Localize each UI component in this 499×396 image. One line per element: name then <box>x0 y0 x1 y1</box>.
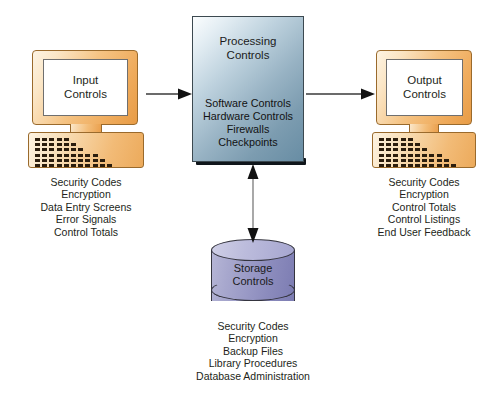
keyboard-key <box>49 143 54 146</box>
keyboard-key <box>422 154 427 157</box>
keyboard-key <box>379 148 384 151</box>
input-caption-item-2: Data Entry Screens <box>0 201 172 213</box>
output-caption-item-3: Control Listings <box>336 213 499 225</box>
keyboard-key <box>386 164 391 167</box>
keyboard-key <box>57 148 62 151</box>
output-screen-title-line2: Controls <box>403 88 446 100</box>
keyboard-key <box>57 159 62 162</box>
output-caption: Security Codes Encryption Control Totals… <box>336 176 499 238</box>
keyboard-key <box>35 143 40 146</box>
processing-item-2: Firewalls <box>193 123 303 136</box>
keyboard-key <box>379 164 384 167</box>
keyboard-key <box>78 148 83 151</box>
keyboard-key <box>393 154 398 157</box>
storage-caption-item-2: Backup Files <box>170 345 336 357</box>
keyboard-key <box>100 159 105 162</box>
storage-caption-item-3: Library Procedures <box>170 357 336 369</box>
keyboard-key <box>42 164 47 167</box>
processing-box: Processing Controls Software Controls Ha… <box>192 16 304 162</box>
keyboard-key <box>57 143 62 146</box>
input-caption: Security Codes Encryption Data Entry Scr… <box>0 176 172 238</box>
keyboard-key <box>64 138 69 141</box>
storage-caption-item-4: Database Administration <box>170 370 336 382</box>
input-caption-item-0: Security Codes <box>0 176 172 188</box>
keyboard-key <box>401 148 406 151</box>
keyboard-key <box>437 154 442 157</box>
keyboard-key <box>415 148 420 151</box>
keyboard-key <box>35 138 40 141</box>
keyboard-key <box>444 164 449 167</box>
keyboard-key <box>71 143 76 146</box>
output-caption-item-1: Encryption <box>336 188 499 200</box>
keyboard-key <box>100 164 105 167</box>
keyboard-key <box>379 143 384 146</box>
keyboard-key <box>437 164 442 167</box>
input-keyboard <box>28 132 144 168</box>
input-screen-title-line2: Controls <box>64 88 107 100</box>
keyboard-key <box>93 159 98 162</box>
keyboard-key <box>415 143 420 146</box>
keyboard-key <box>71 148 76 151</box>
keyboard-key <box>35 164 40 167</box>
processing-title-line2: Controls <box>193 49 303 63</box>
keyboard-key <box>393 148 398 151</box>
storage-cylinder-top <box>211 239 295 261</box>
keyboard-key <box>35 159 40 162</box>
keyboard-key <box>401 159 406 162</box>
storage-label-line1: Storage <box>211 262 295 275</box>
keyboard-key <box>57 164 62 167</box>
keyboard-key <box>57 138 62 141</box>
keyboard-key <box>49 164 54 167</box>
controls-diagram: Input Controls Security Codes Encryption… <box>0 0 499 396</box>
keyboard-key <box>49 138 54 141</box>
storage-label: Storage Controls <box>211 262 295 289</box>
storage-cylinder: Storage Controls <box>211 239 295 313</box>
arrow-processing-storage <box>248 164 259 243</box>
keyboard-key <box>85 154 90 157</box>
keyboard-key <box>429 159 434 162</box>
input-monitor-screen: Input Controls <box>43 59 128 116</box>
keyboard-key <box>49 159 54 162</box>
keyboard-key <box>64 143 69 146</box>
keyboard-key <box>422 148 427 151</box>
keyboard-key <box>35 148 40 151</box>
keyboard-key <box>71 154 76 157</box>
processing-item-0: Software Controls <box>193 97 303 110</box>
input-screen-title-line1: Input <box>73 74 99 86</box>
input-caption-item-1: Encryption <box>0 188 172 200</box>
output-computer: Output Controls <box>372 50 476 168</box>
arrow-processing-to-output <box>306 89 375 100</box>
keyboard-key <box>393 143 398 146</box>
keyboard-key <box>49 154 54 157</box>
keyboard-key <box>42 143 47 146</box>
keyboard-key <box>408 148 413 151</box>
storage-caption-item-1: Encryption <box>170 332 336 344</box>
output-caption-item-4: End User Feedback <box>336 226 499 238</box>
keyboard-key <box>408 143 413 146</box>
processing-items: Software Controls Hardware Controls Fire… <box>193 97 303 149</box>
keyboard-key <box>64 164 69 167</box>
output-keyboard <box>372 132 476 168</box>
keyboard-key <box>85 164 90 167</box>
keyboard-key <box>42 148 47 151</box>
keyboard-key <box>429 164 434 167</box>
output-monitor-screen: Output Controls <box>386 59 463 116</box>
keyboard-key <box>71 159 76 162</box>
keyboard-key <box>437 159 442 162</box>
keyboard-key <box>64 159 69 162</box>
keyboard-key <box>415 159 420 162</box>
keyboard-key <box>93 154 98 157</box>
input-computer: Input Controls <box>28 50 144 168</box>
output-caption-item-0: Security Codes <box>336 176 499 188</box>
input-caption-item-3: Error Signals <box>0 213 172 225</box>
output-caption-item-2: Control Totals <box>336 201 499 213</box>
keyboard-key <box>93 164 98 167</box>
keyboard-key <box>64 154 69 157</box>
keyboard-key <box>386 148 391 151</box>
keyboard-key <box>408 154 413 157</box>
keyboard-key <box>78 159 83 162</box>
keyboard-key <box>42 138 47 141</box>
keyboard-key <box>386 154 391 157</box>
storage-caption-item-0: Security Codes <box>170 320 336 332</box>
keyboard-key <box>379 154 384 157</box>
